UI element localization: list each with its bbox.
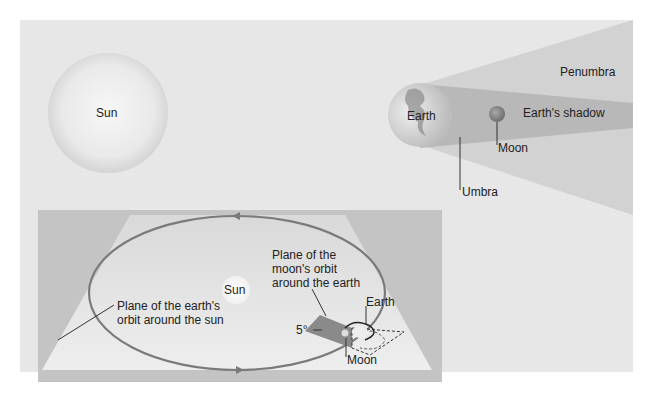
inset-moon [342, 330, 349, 337]
moon-orbit-plane-label-2: moon's orbit [272, 263, 337, 276]
sun-label: Sun [96, 107, 117, 120]
earth-orbit-plane-label-1: Plane of the earth's [117, 300, 220, 313]
penumbra-label: Penumbra [560, 66, 615, 79]
moon-orbit-plane-label-1: Plane of the [272, 249, 336, 262]
earth-shadow-label: Earth's shadow [523, 107, 605, 120]
moon-orbit-plane-label-3: around the earth [272, 277, 360, 290]
diagram-graphics [0, 0, 650, 413]
earth-label: Earth [407, 110, 436, 123]
inset-earth-label: Earth [366, 296, 395, 309]
moon-label: Moon [498, 142, 528, 155]
inset-sun-label: Sun [224, 284, 245, 297]
earth-orbit-plane-label-2: orbit around the sun [117, 314, 224, 327]
umbra-label: Umbra [462, 186, 498, 199]
moon-sphere [489, 106, 505, 122]
inset-moon-label: Moon [347, 354, 377, 367]
inset-earth [352, 326, 368, 338]
angle-label: 5° [296, 324, 307, 337]
